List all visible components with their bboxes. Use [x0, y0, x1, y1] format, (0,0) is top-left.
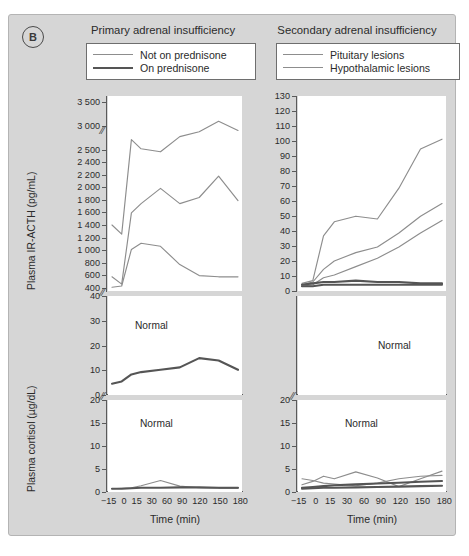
x-ticks-right: −15015306090120150180 — [291, 496, 452, 506]
x-tick-label: 0 — [121, 496, 126, 506]
y-tick-label: 10 — [280, 271, 290, 281]
data-series-line — [112, 487, 238, 488]
y-tick-label: 1 800 — [77, 195, 100, 205]
axis-break-marker-icon: ⁄⁄ — [101, 287, 105, 298]
plot-right-cortisol-lower — [298, 400, 446, 492]
x-tick-label: −15 — [291, 496, 306, 506]
y-tick-label: 60 — [280, 196, 290, 206]
axis-break-marker-icon: ⁄⁄ — [101, 391, 105, 402]
chart-curves — [298, 96, 446, 291]
legend-item: Not on prednisone — [93, 48, 249, 61]
x-axis-label-right: Time (min) — [298, 513, 446, 525]
data-series-line — [302, 204, 442, 285]
y-tick-label: 130 — [275, 91, 290, 101]
y-tick-label: 0 — [95, 487, 100, 497]
x-tick-label: 60 — [162, 496, 172, 506]
x-tick-label: 120 — [393, 496, 408, 506]
chart-curves — [108, 296, 242, 395]
y-ticks-right-acth: 1301201101009080706050403020100 — [250, 96, 290, 291]
y-axis-label-cortisol: Plasma cortisol (µg/dL) — [26, 386, 37, 492]
y-tick-label: 15 — [90, 418, 100, 428]
y-tick-label: 600 — [85, 270, 100, 280]
data-series-line — [112, 176, 238, 284]
y-tick-label: 0 — [285, 487, 290, 497]
figure-root: B Primary adrenal insufficiency Secondar… — [0, 0, 469, 556]
x-tick-label: 0 — [313, 496, 318, 506]
x-tick-label: −15 — [101, 496, 116, 506]
x-tick-label: 15 — [132, 496, 142, 506]
normal-label-right-bottom: Normal — [345, 418, 378, 429]
data-series-line — [302, 220, 442, 286]
column-title-right: Secondary adrenal insufficiency — [262, 24, 452, 36]
y-tick-label: 1 200 — [77, 233, 100, 243]
x-tick-label: 15 — [325, 496, 335, 506]
axis-break-marker-icon: ⁄⁄ — [291, 391, 295, 402]
y-tick-label: 20 — [90, 341, 100, 351]
y-tick-label: 70 — [280, 181, 290, 191]
y-axis-label-acth: Plasma IR-ACTH (pg/mL) — [26, 172, 37, 290]
panel-letter-badge: B — [22, 26, 44, 48]
y-tick-label: 40 — [90, 291, 100, 301]
x-tick-label: 120 — [192, 496, 207, 506]
legend-item: Hypothalamic lesions — [283, 61, 453, 74]
y-tick-label: 15 — [280, 418, 290, 428]
legend-label: Hypothalamic lesions — [330, 62, 430, 74]
y-tick-label: 800 — [85, 258, 100, 268]
y-tick-label: 5 — [95, 464, 100, 474]
y-ticks-right-cortisol-lower: 20151050 — [250, 400, 290, 492]
y-ticks-left-cortisol-upper: 403020100 — [52, 296, 100, 395]
chart-curves — [108, 96, 242, 291]
y-tick-label: 10 — [280, 441, 290, 451]
plot-right-acth — [298, 96, 446, 291]
x-tick-label: 60 — [359, 496, 369, 506]
plot-right-cortisol-upper — [298, 296, 446, 395]
y-tick-label: 20 — [280, 256, 290, 266]
data-series-line — [302, 139, 442, 283]
legend-swatch-line-icon — [93, 67, 133, 69]
y-tick-label: 110 — [276, 121, 291, 131]
column-title-left: Primary adrenal insufficiency — [78, 24, 248, 36]
y-tick-label: 3 500 — [77, 97, 100, 107]
x-tick-label: 180 — [233, 496, 248, 506]
chart-curves — [108, 400, 242, 492]
axis-spine-right-bottom — [296, 400, 297, 492]
y-tick-label: 3 000 — [77, 121, 100, 131]
y-tick-label: 10 — [90, 441, 100, 451]
y-tick-label: 2 400 — [77, 157, 100, 167]
data-series-line — [302, 285, 442, 286]
y-tick-label: 2 000 — [77, 182, 100, 192]
y-tick-label: 20 — [280, 395, 290, 405]
axis-spine-left-top — [106, 96, 107, 292]
plot-left-cortisol-upper — [108, 296, 242, 395]
x-tick-label: 30 — [342, 496, 352, 506]
axis-break-marker-icon: ⁄⁄ — [101, 125, 105, 136]
x-tick-label: 150 — [415, 496, 430, 506]
y-tick-label: 10 — [90, 365, 100, 375]
legend-swatch-line-icon — [283, 54, 323, 55]
x-axis-label-left: Time (min) — [108, 513, 242, 525]
y-ticks-left-acth: 3 5003 0002 5002 4002 2002 0001 8001 600… — [52, 96, 100, 291]
y-tick-label: 5 — [285, 464, 290, 474]
y-tick-label: 1 400 — [77, 220, 100, 230]
chart-curves — [298, 400, 446, 492]
plot-left-acth — [108, 96, 242, 291]
y-tick-label: 100 — [275, 136, 290, 146]
axis-spine-right-top — [296, 96, 297, 292]
y-tick-label: 90 — [280, 151, 290, 161]
legend-right: Pituitary lesions Hypothalamic lesions — [276, 43, 460, 80]
x-tick-label: 30 — [147, 496, 157, 506]
legend-label: Not on prednisone — [140, 49, 227, 61]
y-tick-label: 0 — [285, 286, 290, 296]
normal-label-left-mid: Normal — [135, 320, 168, 331]
legend-item: On prednisone — [93, 61, 249, 74]
y-tick-label: 2 200 — [77, 170, 100, 180]
normal-label-right-mid: Normal — [378, 340, 411, 351]
legend-label: Pituitary lesions — [330, 49, 404, 61]
legend-swatch-line-icon — [93, 54, 133, 55]
y-tick-label: 2 500 — [77, 145, 100, 155]
y-ticks-left-cortisol-lower: 20151050 — [52, 400, 100, 492]
legend-left: Not on prednisone On prednisone — [86, 43, 256, 80]
y-tick-label: 80 — [280, 166, 290, 176]
legend-swatch-line-icon — [283, 67, 323, 68]
x-tick-label: 90 — [376, 496, 386, 506]
